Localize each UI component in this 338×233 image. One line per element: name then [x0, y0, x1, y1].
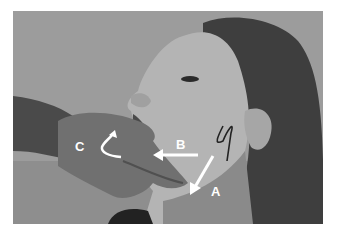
- label-a: A: [211, 185, 220, 198]
- clinical-photo: C B A: [13, 11, 323, 224]
- closed-eye: [181, 76, 199, 82]
- photo-illustration: [13, 11, 323, 224]
- label-c: C: [75, 140, 84, 153]
- label-b: B: [176, 138, 185, 151]
